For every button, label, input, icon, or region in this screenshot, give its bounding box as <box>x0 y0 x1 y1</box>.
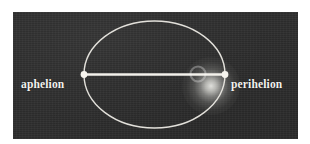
orbit-figure: aphelion perihelion <box>0 0 310 144</box>
diagram-panel: aphelion perihelion <box>13 12 298 139</box>
perihelion-label: perihelion <box>231 79 282 91</box>
aphelion-point-marker <box>81 71 88 78</box>
orbit-drawing <box>13 12 298 139</box>
aphelion-label: aphelion <box>21 79 64 91</box>
perihelion-point-marker <box>222 71 229 78</box>
